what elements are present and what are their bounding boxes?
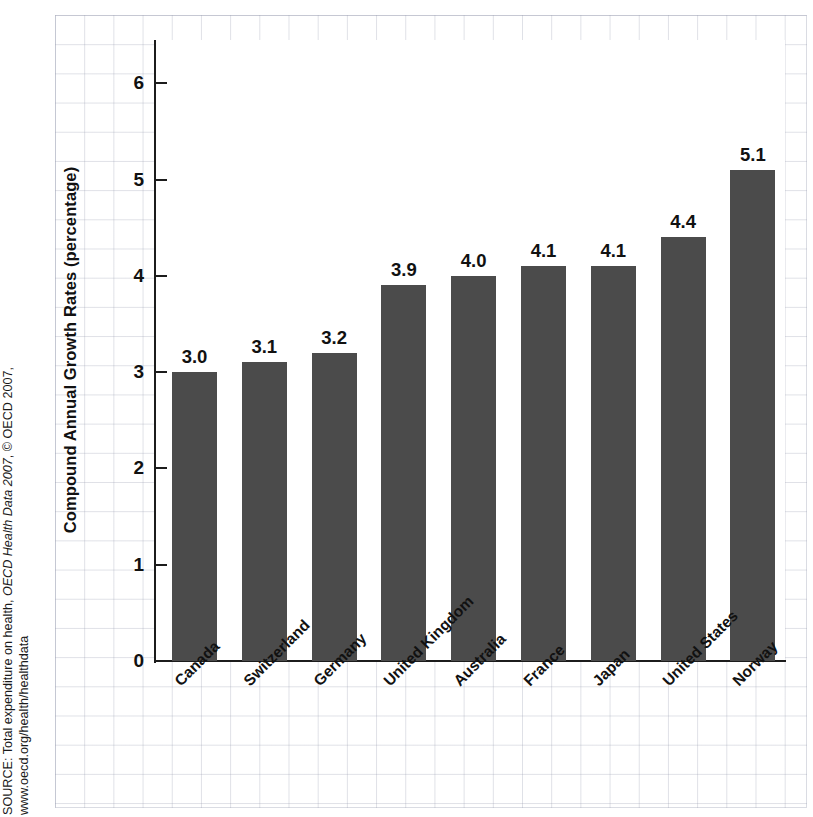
- y-axis-tick-label-text: 5: [104, 169, 144, 191]
- y-axis-tick-label: 3: [104, 361, 144, 383]
- y-axis-tick-mark: [156, 564, 167, 566]
- y-axis-tick-mark: [156, 467, 167, 469]
- y-axis-tick-label-text: 3: [104, 361, 144, 383]
- bar: [730, 170, 775, 661]
- y-axis-tick-label-text: 1: [104, 554, 144, 576]
- bar-value-label: 4.0: [444, 250, 504, 272]
- y-axis-line: [154, 40, 156, 663]
- y-axis-tick-label: 2: [104, 457, 144, 479]
- bar-value-label: 3.9: [374, 259, 434, 281]
- y-axis-tick-label: 6: [104, 72, 144, 94]
- bar-value-label: 5.1: [723, 144, 783, 166]
- y-axis-tick-label-text: 6: [104, 72, 144, 94]
- bar: [242, 362, 287, 661]
- bar: [661, 237, 706, 661]
- bar-value-label: 4.1: [514, 240, 574, 262]
- bar: [591, 266, 636, 661]
- y-axis-tick-mark: [156, 82, 167, 84]
- bar-chart: Compound Annual Growth Rates (percentage…: [0, 0, 813, 817]
- bar-value-label: 3.0: [165, 346, 225, 368]
- bar: [381, 285, 426, 661]
- y-axis-tick-mark: [156, 660, 167, 662]
- y-axis-tick-label: 0: [104, 650, 144, 672]
- y-axis-tick-label: 4: [104, 265, 144, 287]
- bar-value-label: 3.1: [234, 336, 294, 358]
- y-axis-tick-label: 1: [104, 554, 144, 576]
- bar-value-label: 3.2: [304, 327, 364, 349]
- y-axis-title: Compound Annual Growth Rates (percentage…: [61, 90, 85, 610]
- bar: [521, 266, 566, 661]
- y-axis-tick-label: 5: [104, 169, 144, 191]
- y-axis-tick-label-text: 2: [104, 457, 144, 479]
- bar-value-label: 4.4: [653, 211, 713, 233]
- y-axis-tick-mark: [156, 371, 167, 373]
- y-axis-tick-mark: [156, 179, 167, 181]
- bar: [172, 372, 217, 661]
- y-axis-tick-label-text: 0: [104, 650, 144, 672]
- y-axis-tick-mark: [156, 275, 167, 277]
- bar-value-label: 4.1: [583, 240, 643, 262]
- bar: [312, 353, 357, 661]
- y-axis-tick-label-text: 4: [104, 265, 144, 287]
